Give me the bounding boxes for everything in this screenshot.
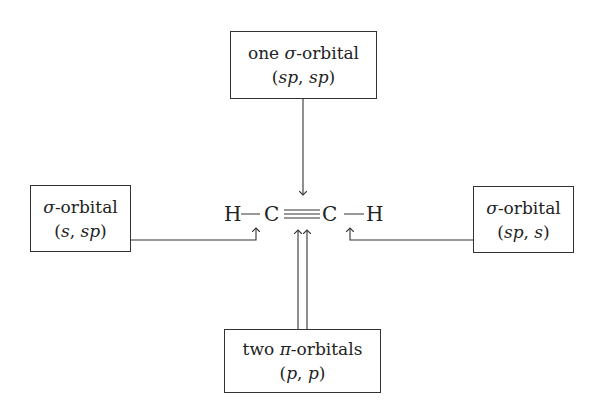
atom-c-left: C	[264, 199, 279, 229]
atom-c-right: C	[322, 199, 337, 229]
atom-h-left: H	[224, 199, 241, 229]
arrow-left	[130, 228, 256, 240]
box-subtitle: (sp, sp)	[272, 65, 335, 89]
box-sigma-orbital-right: σ-orbital (sp, s)	[473, 186, 574, 253]
box-subtitle: (s, sp)	[54, 219, 106, 243]
box-subtitle: (p, p)	[280, 361, 326, 385]
arrow-right	[350, 228, 473, 240]
box-title: σ-orbital	[43, 195, 117, 219]
box-title: two π-orbitals	[243, 337, 363, 361]
acetylene-molecule: H C C H	[222, 199, 386, 229]
box-title: σ-orbital	[486, 196, 560, 220]
box-title: one σ-orbital	[248, 41, 359, 65]
atom-h-right: H	[366, 199, 383, 229]
box-one-sigma-orbital: one σ-orbital (sp, sp)	[230, 31, 377, 99]
box-subtitle: (sp, s)	[497, 220, 549, 244]
box-sigma-orbital-left: σ-orbital (s, sp)	[30, 185, 131, 252]
box-two-pi-orbitals: two π-orbitals (p, p)	[224, 329, 381, 393]
